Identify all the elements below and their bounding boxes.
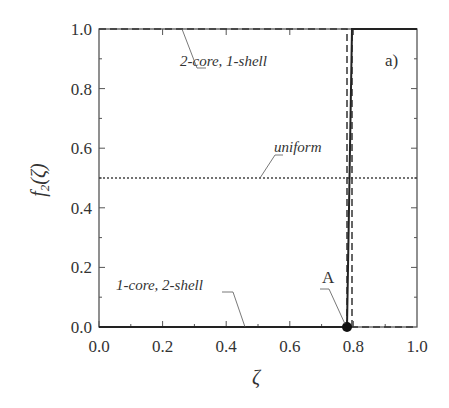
- annotation-one-core: 1-core, 2-shell: [116, 277, 203, 293]
- annotation-uniform: uniform: [274, 139, 322, 155]
- svg-text:0.0: 0.0: [71, 318, 92, 337]
- svg-text:1.0: 1.0: [71, 20, 92, 39]
- x-tick-labels: 0.0 0.2 0.4 0.6 0.8 1.0: [88, 337, 427, 356]
- panel-label: a): [385, 51, 398, 70]
- svg-text:0.2: 0.2: [152, 337, 173, 356]
- chart: 0.0 0.2 0.4 0.6 0.8 1.0 0.0 0.2 0.4 0.6 …: [0, 0, 449, 408]
- leader-point-a: [320, 289, 345, 324]
- svg-text:0.4: 0.4: [71, 199, 93, 218]
- svg-text:0.4: 0.4: [216, 337, 238, 356]
- svg-text:0.8: 0.8: [343, 337, 364, 356]
- x-axis-title: ζ: [252, 366, 262, 389]
- leader-uniform: [260, 155, 283, 178]
- y-tick-labels: 0.0 0.2 0.4 0.6 0.8 1.0: [71, 20, 93, 337]
- annotation-two-core: 2-core, 1-shell: [180, 53, 267, 69]
- y-axis-title: f2(ζ): [27, 163, 52, 197]
- svg-text:0.0: 0.0: [88, 337, 109, 356]
- svg-text:1.0: 1.0: [406, 337, 427, 356]
- svg-text:0.6: 0.6: [71, 139, 92, 158]
- leader-one-core: [222, 292, 245, 327]
- svg-text:0.2: 0.2: [71, 258, 92, 277]
- point-a-marker: [342, 322, 352, 332]
- svg-text:0.6: 0.6: [279, 337, 300, 356]
- y-ticks: [99, 59, 417, 297]
- svg-text:0.8: 0.8: [71, 80, 92, 99]
- point-a-label: A: [322, 268, 335, 287]
